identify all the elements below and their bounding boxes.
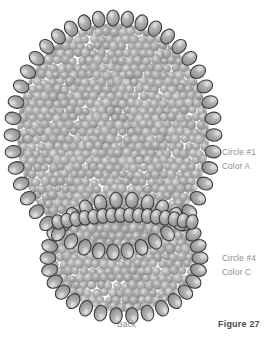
bead-highlight (191, 151, 194, 153)
bead-highlight (154, 57, 157, 60)
inner-bead (119, 128, 127, 135)
bead-highlight (75, 164, 78, 166)
bead-highlight (104, 174, 106, 176)
bead-highlight (149, 80, 152, 82)
bead-highlight (142, 262, 145, 264)
bead-highlight (151, 291, 153, 293)
inner-bead (70, 127, 78, 135)
bead-highlight (173, 181, 176, 183)
inner-bead (48, 21, 57, 30)
inner-bead (19, 215, 27, 223)
bead-highlight (2, 94, 5, 96)
inner-bead (178, 266, 186, 274)
bead-highlight (93, 303, 96, 306)
bead-highlight (95, 291, 98, 293)
bead-highlight (154, 269, 157, 271)
bead-highlight (141, 51, 144, 54)
bead-highlight (63, 187, 65, 189)
bead-highlight (167, 290, 170, 292)
inner-bead (135, 85, 143, 93)
bead-highlight (182, 166, 185, 168)
bead-highlight (99, 282, 101, 284)
bead-highlight (38, 230, 41, 232)
label-circle-4: Circle #4 (222, 253, 256, 264)
inner-bead (27, 170, 36, 179)
bead-highlight (96, 44, 98, 46)
inner-bead (216, 86, 224, 95)
bead-highlight (178, 173, 180, 175)
bead-highlight (141, 164, 144, 166)
inner-bead (114, 282, 122, 290)
bead-highlight (111, 291, 114, 293)
inner-bead (159, 261, 167, 268)
bead-highlight (51, 179, 54, 181)
inner-bead (9, 192, 17, 200)
bead-highlight (176, 262, 179, 264)
bead-highlight (6, 186, 9, 188)
bead-highlight (154, 227, 157, 229)
bead-highlight (186, 186, 189, 188)
inner-bead (80, 5, 90, 15)
bead-highlight (37, 86, 40, 88)
inner-bead (44, 55, 54, 65)
bead-highlight (63, 201, 66, 203)
bead-highlight (156, 95, 158, 97)
upper-outer-bead (107, 244, 119, 260)
bead-highlight (150, 180, 153, 182)
inner-bead (201, 57, 209, 65)
bead-highlight (111, 159, 114, 161)
bead-highlight (26, 93, 29, 95)
bead-highlight (80, 116, 82, 118)
bead-highlight (127, 234, 130, 236)
bead-highlight (21, 145, 23, 147)
bead-highlight (88, 45, 90, 47)
bead-highlight (151, 261, 153, 263)
bead-highlight (120, 2, 123, 4)
bead-highlight (104, 44, 106, 46)
bead-highlight (46, 158, 49, 160)
bead-highlight (165, 93, 168, 95)
bead-highlight (55, 86, 58, 89)
inner-bead (53, 56, 61, 64)
inner-bead (122, 147, 132, 157)
inner-bead (0, 92, 9, 100)
bead-highlight (25, 136, 28, 139)
inner-bead (192, 43, 202, 52)
bead-highlight (30, 102, 33, 104)
bead-highlight (124, 193, 127, 195)
bead-highlight (125, 108, 127, 110)
bead-highlight (165, 66, 167, 68)
bead-highlight (34, 138, 37, 140)
bead-highlight (194, 186, 197, 188)
bead-highlight (10, 81, 13, 83)
bead-highlight (186, 87, 189, 89)
bead-highlight (89, 282, 92, 284)
inner-bead (143, 84, 151, 92)
bead-highlight (2, 165, 5, 167)
bead-highlight (141, 194, 144, 196)
bead-highlight (154, 116, 157, 118)
bead-highlight (162, 59, 164, 61)
outer-bead-highlight (7, 134, 11, 138)
inner-bead (125, 0, 135, 8)
bead-highlight (131, 225, 134, 227)
bead-highlight (143, 234, 146, 236)
bead-highlight (165, 109, 167, 111)
bead-highlight (223, 122, 225, 124)
bead-highlight (82, 66, 85, 68)
bead-highlight (80, 59, 82, 61)
bead-highlight (77, 276, 80, 278)
bead-highlight (102, 290, 104, 292)
bead-highlight (34, 152, 36, 154)
bead-highlight (87, 143, 90, 145)
bead-highlight (194, 144, 196, 146)
bead-highlight (149, 109, 151, 111)
inner-bead (91, 260, 99, 268)
bead-highlight (135, 261, 138, 263)
bead-highlight (96, 172, 99, 174)
bead-highlight (103, 159, 106, 161)
label-color-c: Color C (222, 267, 251, 278)
bead-highlight (115, 180, 118, 182)
inner-bead (11, 197, 21, 207)
bead-highlight (116, 109, 118, 111)
